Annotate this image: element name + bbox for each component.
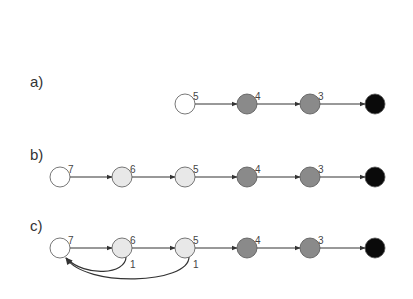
node-light — [175, 167, 195, 187]
node-number: 5 — [193, 235, 199, 246]
node-number: 3 — [318, 235, 324, 246]
node-mid — [300, 238, 320, 258]
panel-c: c)1176543 — [30, 217, 385, 279]
panel-label: b) — [30, 146, 43, 163]
node-number: 6 — [130, 164, 136, 175]
node-black — [365, 167, 385, 187]
node-white — [50, 238, 70, 258]
panel-a: a)543 — [30, 73, 385, 114]
panel-b: b)76543 — [30, 146, 385, 187]
node-number: 7 — [68, 164, 74, 175]
node-light — [175, 238, 195, 258]
back-edge-label: 1 — [130, 259, 136, 270]
node-black — [365, 238, 385, 258]
node-number: 4 — [255, 235, 261, 246]
panel-label: a) — [30, 73, 43, 90]
node-mid — [237, 167, 257, 187]
node-number: 5 — [193, 91, 199, 102]
node-number: 3 — [318, 91, 324, 102]
node-mid — [300, 167, 320, 187]
back-edge — [66, 257, 126, 271]
panel-label: c) — [30, 217, 43, 234]
node-number: 4 — [255, 164, 261, 175]
node-number: 6 — [130, 235, 136, 246]
node-number: 3 — [318, 164, 324, 175]
node-number: 4 — [255, 91, 261, 102]
node-mid — [300, 94, 320, 114]
chain-diagram: a)543b)76543c)1176543 — [0, 0, 413, 299]
node-mid — [237, 238, 257, 258]
node-number: 7 — [68, 235, 74, 246]
node-number: 5 — [193, 164, 199, 175]
node-white — [175, 94, 195, 114]
node-white — [50, 167, 70, 187]
node-light — [112, 167, 132, 187]
back-edge — [66, 257, 189, 279]
back-edge-label: 1 — [193, 259, 199, 270]
node-mid — [237, 94, 257, 114]
node-light — [112, 238, 132, 258]
node-black — [365, 94, 385, 114]
